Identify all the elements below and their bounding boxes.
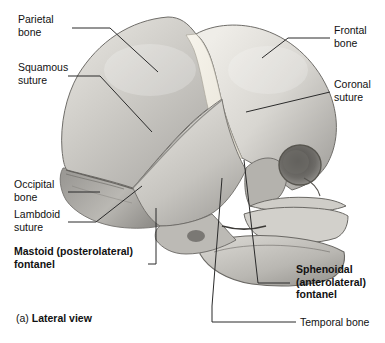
label-mastoid-fontanel: Mastoid (posterolateral) fontanel [14, 245, 133, 270]
label-squamous-suture: Squamous suture [18, 61, 68, 86]
label-lambdoid-suture: Lambdoid suture [14, 208, 60, 233]
label-parietal-bone: Parietal bone [18, 13, 54, 38]
figure-caption: (a) Lateral view [16, 312, 92, 324]
label-sphenoidal-fontanel: Sphenoidal (anterolateral) fontanel [296, 263, 366, 301]
caption-marker: (a) [16, 312, 29, 324]
label-coronal-suture: Coronal suture [334, 78, 371, 103]
caption-title: Lateral view [32, 312, 92, 324]
label-temporal-bone: Temporal bone [300, 316, 369, 329]
fetal-skull-figure: Parietal bone Squamous suture Occipital … [0, 0, 385, 343]
label-frontal-bone: Frontal bone [334, 24, 367, 49]
label-occipital-bone: Occipital bone [14, 178, 54, 203]
